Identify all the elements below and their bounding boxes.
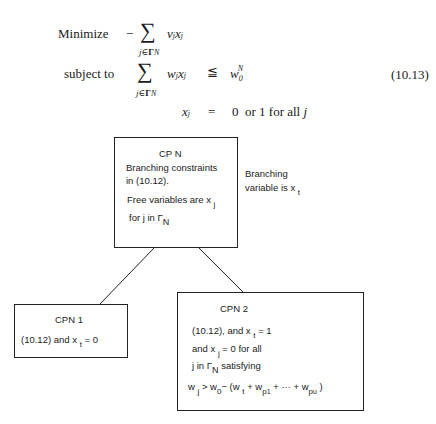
edge-root-right <box>198 247 243 292</box>
right-child-title: CPN 2 <box>220 303 248 314</box>
left-child-line1: (10.12) and x t = 0 <box>21 334 98 345</box>
node-root: CP N Branching constraints in (10.12). F… <box>114 137 238 248</box>
node-left-child: CPN 1 (10.12) and x t = 0 <box>14 304 128 358</box>
root-line4: for j in ΓN <box>129 212 169 223</box>
root-line3: Free variables are x j <box>127 194 215 205</box>
root-line2: in (10.12). <box>126 175 169 186</box>
root-title: CP N <box>159 148 182 159</box>
right-child-line1: (10.12), and x t = 1 <box>192 325 272 336</box>
left-child-title: CPN 1 <box>55 314 83 325</box>
branch-note-line1: Branching <box>245 168 288 179</box>
node-right-child: CPN 2 (10.12), and x t = 1 and x j = 0 f… <box>177 292 364 411</box>
right-child-line3: j in ΓN satisfying <box>192 360 261 371</box>
edge-root-left <box>100 247 155 304</box>
root-line1: Branching constraints <box>126 162 217 173</box>
right-child-line4: w j > w0− (w t + wp1 + ··· + wpu ) <box>188 381 323 392</box>
right-child-line2: and x j = 0 for all <box>192 343 262 354</box>
branch-note-line2: variable is x t <box>245 182 300 193</box>
